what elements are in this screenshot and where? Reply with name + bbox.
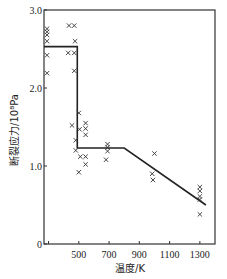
y-tick-label: 0	[37, 239, 42, 250]
x-marker	[105, 149, 109, 153]
x-marker	[198, 189, 202, 193]
x-marker	[150, 172, 154, 176]
x-tick-label: 1300	[190, 249, 210, 260]
plot-border	[44, 10, 215, 244]
plot-frame	[44, 10, 215, 244]
x-marker	[198, 185, 202, 189]
y-tick-label: 3.0	[30, 5, 43, 16]
x-marker	[45, 39, 49, 43]
x-marker	[83, 162, 87, 166]
x-tick-label: 1100	[160, 249, 180, 260]
x-marker	[152, 151, 156, 155]
x-marker	[198, 212, 202, 216]
x-marker	[83, 154, 87, 158]
step-trend-line	[44, 47, 206, 205]
x-marker	[73, 39, 77, 43]
x-tick-label: 900	[132, 249, 147, 260]
x-marker	[45, 71, 49, 75]
x-marker	[83, 126, 87, 130]
x-marker	[77, 170, 81, 174]
trend-line	[44, 47, 206, 205]
x-marker	[72, 51, 76, 55]
x-marker	[83, 121, 87, 125]
x-marker	[151, 178, 155, 182]
x-marker	[104, 158, 108, 162]
x-marker	[72, 23, 76, 27]
x-marker	[78, 154, 82, 158]
x-marker	[45, 53, 49, 57]
fracture-stress-chart: 50070090011001300 01.02.03.0 温度/K 断裂应力/1…	[0, 0, 227, 279]
data-points	[45, 23, 202, 216]
x-marker	[45, 33, 49, 37]
y-tick-label: 2.0	[30, 83, 43, 94]
x-marker	[66, 51, 70, 55]
x-marker	[83, 133, 87, 137]
y-tick-label: 1.0	[30, 161, 43, 172]
x-axis-label: 温度/K	[115, 262, 145, 274]
x-tick-label: 700	[102, 249, 117, 260]
x-marker	[74, 148, 78, 152]
y-axis-label: 断裂应力/10⁸Pa	[8, 94, 20, 166]
x-marker	[70, 123, 74, 127]
x-tick-label: 500	[71, 249, 86, 260]
x-marker	[72, 69, 76, 73]
x-marker	[67, 23, 71, 27]
